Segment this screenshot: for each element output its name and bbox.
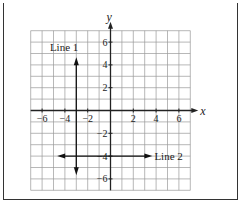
x-axis-label: x: [199, 104, 206, 118]
line-2-arrow-left-icon: [57, 154, 65, 159]
x-tick-label: 4: [154, 113, 159, 124]
line-1-arrow-down-icon: [74, 167, 79, 175]
line-2-label: Line 2: [154, 150, 182, 162]
x-tick-label: −2: [82, 113, 93, 124]
coordinate-plane: xy−6−4−2246642−2−4−6Line 1Line 2: [0, 0, 243, 207]
y-tick-label: 6: [103, 37, 108, 48]
x-axis-arrow-icon: [191, 108, 198, 113]
y-tick-label: −6: [97, 173, 108, 184]
y-axis-label: y: [106, 10, 113, 24]
x-tick-label: 2: [131, 113, 136, 124]
x-tick-label: 6: [176, 113, 181, 124]
x-tick-label: −4: [60, 113, 71, 124]
x-tick-label: −6: [37, 113, 48, 124]
y-tick-label: −2: [97, 128, 108, 139]
line-2-arrow-right-icon: [144, 154, 152, 159]
y-tick-label: 4: [103, 59, 108, 70]
line-1-label: Line 1: [50, 41, 78, 53]
y-tick-label: 2: [103, 82, 108, 93]
line-1-arrow-up-icon: [74, 57, 79, 65]
